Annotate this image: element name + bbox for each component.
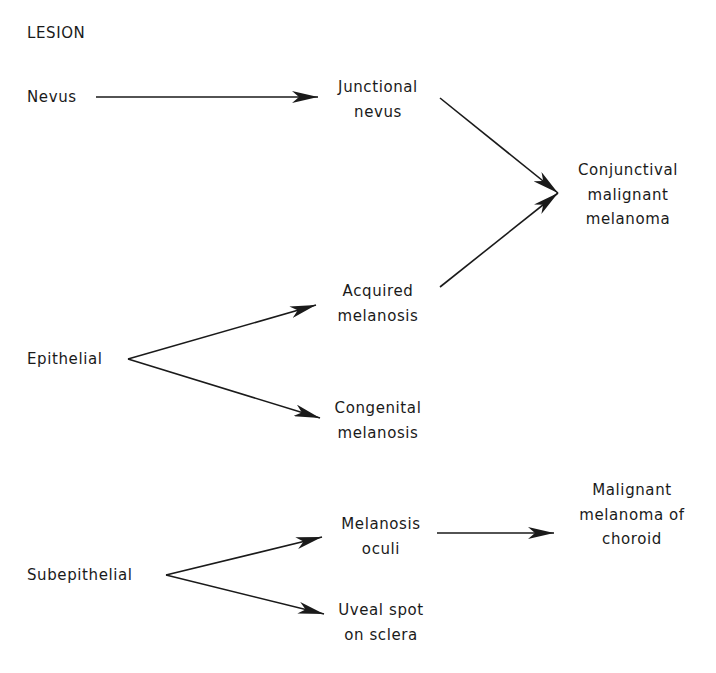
- node-text: melanosis: [337, 304, 418, 329]
- node-choroid-melanoma: Malignant melanoma of choroid: [579, 478, 685, 552]
- arrow-junctional-to-conjunctival: [440, 98, 558, 193]
- node-text: oculi: [341, 537, 420, 562]
- node-conjunctival-melanoma: Conjunctival malignant melanoma: [578, 158, 678, 232]
- source-subepithelial: Subepithelial: [27, 563, 133, 588]
- node-melanosis-oculi: Melanosis oculi: [341, 512, 420, 561]
- diagram-title: LESION: [27, 21, 85, 46]
- node-text: Malignant: [579, 478, 685, 503]
- node-uveal-spot: Uveal spot on sclera: [338, 598, 424, 647]
- node-text: on sclera: [338, 623, 424, 648]
- node-text: Acquired: [337, 279, 418, 304]
- node-text: Congenital: [335, 396, 422, 421]
- node-text: melanosis: [335, 421, 422, 446]
- node-acquired-melanosis: Acquired melanosis: [337, 279, 418, 328]
- node-congenital-melanosis: Congenital melanosis: [335, 396, 422, 445]
- node-junctional-nevus: Junctional nevus: [338, 75, 418, 124]
- arrow-subepithelial-to-melanosis-oculi: [166, 537, 322, 575]
- arrow-epithelial-to-congenital: [128, 359, 320, 418]
- node-text: choroid: [579, 527, 685, 552]
- source-epithelial: Epithelial: [27, 347, 102, 372]
- node-text: melanoma of: [579, 503, 685, 528]
- node-text: nevus: [338, 100, 418, 125]
- node-text: Melanosis: [341, 512, 420, 537]
- node-text: Junctional: [338, 75, 418, 100]
- source-nevus: Nevus: [27, 85, 77, 110]
- arrow-acquired-to-conjunctival: [440, 193, 558, 287]
- arrow-subepithelial-to-uveal-spot: [166, 575, 324, 614]
- node-text: melanoma: [578, 207, 678, 232]
- node-text: Conjunctival: [578, 158, 678, 183]
- node-text: malignant: [578, 183, 678, 208]
- node-text: Uveal spot: [338, 598, 424, 623]
- arrow-epithelial-to-acquired: [128, 305, 316, 359]
